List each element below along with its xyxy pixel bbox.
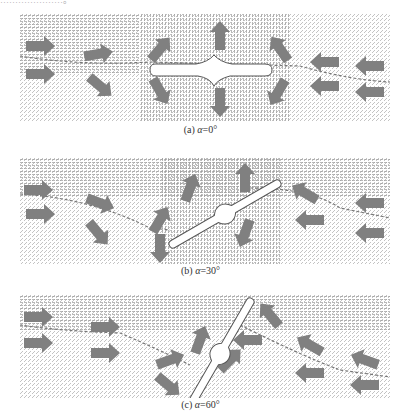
panel-caption-b: (b) α=30° xyxy=(0,265,401,276)
vector-field-panel-c xyxy=(20,295,390,398)
vector-field-panel-b xyxy=(20,158,390,264)
panel-caption-c: (c) α=60° xyxy=(0,399,401,410)
cropped-text-fragment: …………………。 xyxy=(0,0,130,4)
vector-field-panel-a xyxy=(20,14,390,122)
panel-caption-a: (a) α=0° xyxy=(0,124,401,135)
